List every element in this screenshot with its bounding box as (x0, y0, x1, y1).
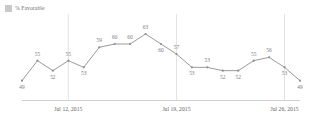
favorability-line-chart: % Favorable 4955525553596060636057535352… (0, 0, 310, 119)
data-point-label: 53 (189, 70, 195, 76)
series-line-favorable (22, 34, 300, 81)
data-point-label: 49 (19, 84, 25, 90)
data-point (206, 66, 208, 68)
data-point (36, 60, 38, 62)
data-point-label: 57 (174, 44, 180, 50)
data-point-markers (21, 33, 301, 82)
data-point-label: 55 (35, 51, 41, 57)
data-point-label: 49 (297, 84, 303, 90)
data-point-label: 53 (282, 70, 288, 76)
data-point (114, 43, 116, 45)
data-point (175, 53, 177, 55)
gridlines (68, 14, 284, 100)
chart-legend: % Favorable (5, 4, 45, 13)
data-point (283, 66, 285, 68)
data-point-label: 56 (266, 47, 272, 53)
data-point-label: 60 (112, 34, 118, 40)
x-axis-line (22, 100, 300, 101)
data-point-label: 53 (205, 57, 211, 63)
x-axis-tick-labels: Jul 12, 2015Jul 19, 2015Jul 26, 2015 (0, 103, 310, 117)
data-point (129, 43, 131, 45)
data-point (52, 70, 54, 72)
data-point-label: 55 (251, 51, 257, 57)
data-point (253, 60, 255, 62)
x-axis-tick-label: Jul 12, 2015 (54, 106, 82, 112)
data-point (191, 66, 193, 68)
data-point (98, 46, 100, 48)
data-point-label: 53 (81, 70, 87, 76)
data-point (237, 70, 239, 72)
data-point (268, 56, 270, 58)
data-point (160, 43, 162, 45)
plot-svg (0, 14, 310, 100)
data-point-label: 52 (235, 74, 241, 80)
x-axis-tick-label: Jul 26, 2015 (270, 106, 298, 112)
legend-label-favorable: % Favorable (15, 5, 45, 12)
data-point (299, 80, 301, 82)
data-point-label: 52 (50, 74, 56, 80)
data-point (222, 70, 224, 72)
data-point-label: 60 (127, 34, 133, 40)
data-point (21, 80, 23, 82)
data-point-label: 52 (220, 74, 226, 80)
data-point-label: 59 (96, 37, 102, 43)
data-point (67, 60, 69, 62)
data-point (83, 66, 85, 68)
data-point-label: 60 (158, 47, 164, 53)
x-axis-tick-label: Jul 19, 2015 (162, 106, 190, 112)
data-point (144, 33, 146, 35)
plot-area (0, 14, 310, 100)
data-point-label: 63 (143, 24, 149, 30)
data-point-label: 55 (66, 51, 72, 57)
legend-swatch-favorable (5, 5, 12, 12)
